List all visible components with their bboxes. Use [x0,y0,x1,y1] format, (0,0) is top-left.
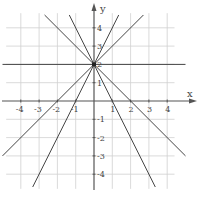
y-axis-label: y [99,3,106,14]
x-tick-label: -2 [52,105,60,114]
x-axis-label: x [187,88,193,99]
x-tick-label: 1 [110,105,115,114]
x-tick-label: -3 [34,105,42,114]
plotted-line [45,15,186,156]
x-tick-label: -1 [71,105,79,114]
plotted-line [3,15,144,156]
coordinate-plane: -4-3-2-112344321-1-2-3-4 x y [0,0,200,198]
x-axis-arrow-icon [189,99,197,104]
x-tick-label: 4 [165,105,170,114]
y-tick-label: -3 [97,152,105,161]
x-tick-label: 3 [147,105,152,114]
x-tick-label: -4 [16,105,24,114]
y-tick-label: 4 [97,24,102,33]
y-tick-label: -1 [97,115,105,124]
y-tick-label: 2 [97,60,102,69]
y-tick-label: 1 [97,79,102,88]
y-tick-label: 3 [97,42,102,51]
intersection-point [92,62,96,66]
y-axis-arrow-icon [92,3,97,11]
y-tick-label: -2 [97,134,105,143]
y-tick-label: -4 [97,170,105,179]
x-tick-label: 2 [129,105,134,114]
